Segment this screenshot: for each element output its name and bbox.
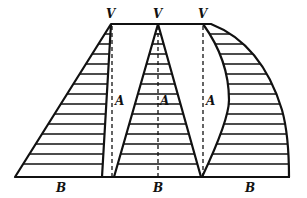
middle-triangle [0,24,307,180]
three-section-diagram: V V V A A A B B B [0,0,307,198]
vertex-label-left: V [106,7,117,21]
base-label-left: B [55,181,66,195]
axis-label-middle: A [159,94,169,108]
vertex-label-middle: V [153,7,164,21]
base-label-right: B [244,181,255,195]
axis-label-left: A [114,94,124,108]
base-label-middle: B [152,181,163,195]
axis-label-right: A [205,94,215,108]
vertex-label-right: V [198,7,209,21]
